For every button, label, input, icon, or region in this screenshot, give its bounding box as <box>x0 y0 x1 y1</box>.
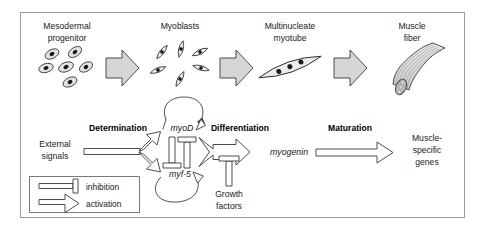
process-label-determination: Determination <box>89 123 147 133</box>
stage-label-line1: Muscle <box>398 21 425 31</box>
process-label-differentiation: Differentiation <box>211 123 269 133</box>
legend-label-inhibition: inhibition <box>86 182 119 192</box>
figure-canvas: Mesodermal progenitor Myoblasts Multinuc… <box>0 0 477 227</box>
stage-label-myoblasts: Myoblasts <box>161 21 200 31</box>
stage-label-line2: fiber <box>404 33 421 43</box>
external-signals-line2: signals <box>42 151 69 161</box>
output-line1: Muscle- <box>412 133 442 143</box>
gene-label-myf5: myf-5 <box>169 169 191 179</box>
stage-label-line1: Mesodermal <box>43 21 90 31</box>
legend: inhibition activation <box>30 177 140 213</box>
stage-label-line1: Multinucleate <box>265 21 316 31</box>
stage-label-line1: Myoblasts <box>161 21 200 31</box>
muscle-specific-genes-label: Muscle- specific genes <box>412 133 442 167</box>
stage-label-line2: progenitor <box>48 33 87 43</box>
output-line2: specific <box>413 145 442 155</box>
myogenesis-figure: Mesodermal progenitor Myoblasts Multinuc… <box>0 0 477 227</box>
external-signals-line1: External <box>39 139 71 149</box>
gene-label-myod: myoD <box>171 123 195 133</box>
output-line3: genes <box>415 157 438 167</box>
gene-label-myogenin: myogenin <box>270 147 308 157</box>
growth-factors-line1: Growth <box>215 189 243 199</box>
legend-border <box>30 177 140 213</box>
process-label-maturation: Maturation <box>328 123 372 133</box>
growth-factors-line2: factors <box>216 201 242 211</box>
legend-label-activation: activation <box>86 199 122 209</box>
stage-label-line2: myotube <box>274 33 307 43</box>
